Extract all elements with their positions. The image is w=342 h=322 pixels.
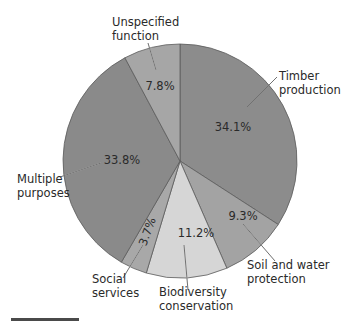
percent-label-unspecified-function: 7.8% [145,79,174,93]
pie-chart: 34.1%9.3%11.2%3.7%33.8%7.8% Timberproduc… [0,0,342,322]
percent-label-multiple-purposes: 33.8% [104,153,141,167]
footer-rule [11,318,79,321]
category-label-social-services: Socialservices [92,272,139,300]
category-label-timber-production: Timberproduction [278,69,341,97]
category-label-biodiversity-conservation: Biodiversityconservation [159,285,233,313]
category-label-unspecified-function: Unspecifiedfunction [112,15,179,43]
category-label-soil-and-water-protection: Soil and waterprotection [247,258,330,286]
percent-label-biodiversity-conservation: 11.2% [178,226,215,240]
percent-label-soil-and-water-protection: 9.3% [228,209,257,223]
pie-slices [63,44,297,278]
percent-label-timber-production: 34.1% [215,120,252,134]
category-label-multiple-purposes: Multiplepurposes [17,172,70,200]
